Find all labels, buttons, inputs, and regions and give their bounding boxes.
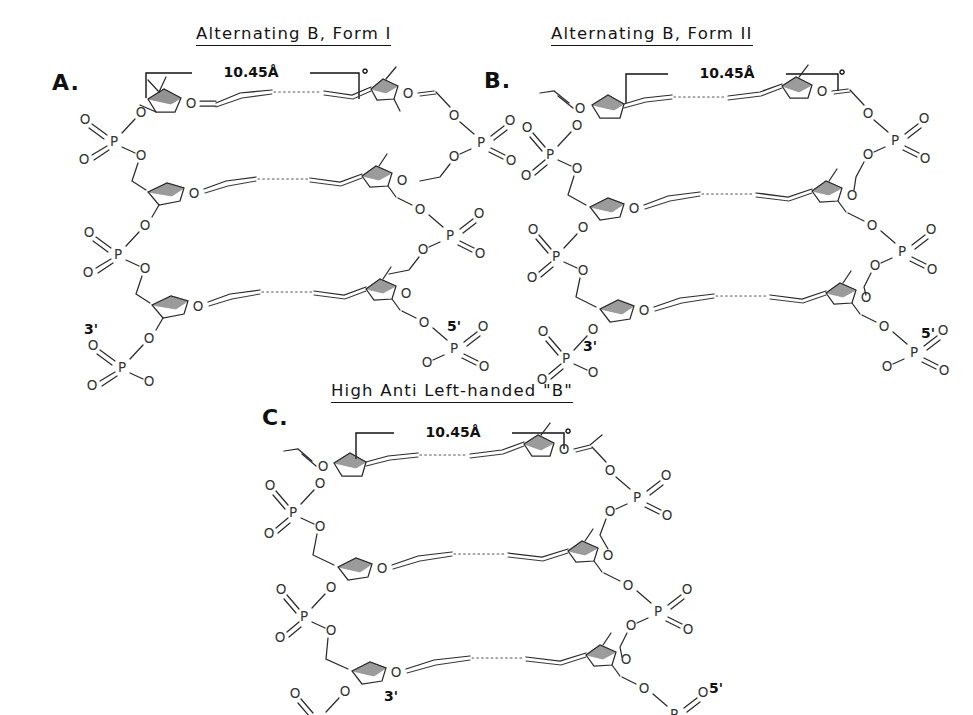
- svg-text:O: O: [397, 172, 408, 188]
- svg-text:O: O: [527, 269, 538, 285]
- svg-text:O: O: [863, 146, 874, 162]
- svg-text:O: O: [265, 477, 276, 493]
- panel-b-phosphate-right-1: O P O O O: [850, 90, 930, 190]
- svg-text:P: P: [552, 248, 560, 264]
- svg-text:O: O: [528, 221, 539, 237]
- panel-a-phosphate-left-2: O P O O O: [83, 217, 151, 303]
- svg-text:O: O: [623, 577, 634, 593]
- panel-c-title: High Anti Left-handed "B": [331, 381, 573, 403]
- svg-text:O: O: [449, 148, 460, 164]
- panel-c-phosphate-right-2: O P O O O: [604, 573, 693, 657]
- svg-text:O: O: [340, 683, 351, 699]
- svg-text:O: O: [920, 150, 931, 166]
- panel-c-basepair-2: O O: [338, 529, 613, 580]
- panel-b-basepair-2: O O: [590, 169, 857, 220]
- panel-a-phosphate-right-2: O P O O O: [389, 198, 485, 274]
- svg-text:O: O: [882, 358, 893, 374]
- panel-b-basepair-3: O O: [600, 271, 871, 322]
- svg-text:O: O: [588, 321, 599, 337]
- svg-text:O: O: [88, 337, 99, 353]
- svg-text:O: O: [136, 147, 147, 163]
- svg-text:O: O: [639, 302, 650, 318]
- panel-c-phosphate-left-3: O P O O O: [289, 683, 351, 715]
- panel-a-structure: 10.45Å O O: [40, 55, 500, 355]
- svg-text:O: O: [578, 219, 589, 235]
- panel-c-dimension-label: 10.45Å: [425, 424, 480, 440]
- panel-b-title: Alternating B, Form II: [551, 24, 753, 46]
- svg-text:P: P: [898, 243, 906, 259]
- svg-text:P: P: [114, 246, 122, 262]
- svg-text:O: O: [264, 525, 275, 541]
- svg-text:P: P: [654, 603, 662, 619]
- svg-text:P: P: [450, 340, 458, 356]
- svg-text:O: O: [276, 581, 287, 597]
- svg-text:O: O: [391, 664, 402, 680]
- svg-text:O: O: [927, 261, 938, 277]
- svg-text:O: O: [572, 160, 583, 176]
- svg-text:O: O: [522, 119, 533, 135]
- panel-b-dimension-label: 10.45Å: [699, 65, 754, 81]
- panel-c-letter: C.: [262, 405, 289, 430]
- panel-a-basepair-3: O O: [152, 267, 411, 330]
- svg-text:O: O: [867, 217, 878, 233]
- svg-text:P: P: [110, 133, 118, 149]
- panel-b-phosphate-left-3: O P O O O: [537, 321, 599, 387]
- svg-text:O: O: [449, 107, 460, 123]
- panel-b-phosphate-left-1: O P O O O: [521, 117, 586, 205]
- panel-a-basepair-1: O O: [140, 67, 436, 112]
- svg-text:O: O: [626, 617, 637, 633]
- svg-text:O: O: [318, 458, 329, 474]
- svg-text:O: O: [575, 100, 586, 116]
- svg-text:O: O: [521, 167, 532, 183]
- panel-a-phosphate-right-3: O P O O O: [402, 311, 489, 374]
- svg-text:O: O: [683, 621, 694, 637]
- panel-b-phosphate-left-2: O P O O O: [527, 219, 596, 307]
- svg-text:O: O: [559, 441, 570, 457]
- svg-text:O: O: [870, 257, 881, 273]
- svg-text:O: O: [326, 622, 337, 638]
- panel-b-letter: B.: [484, 68, 511, 93]
- svg-text:P: P: [300, 608, 308, 624]
- svg-text:O: O: [189, 185, 200, 201]
- panel-a-phosphate-left-3: O P O O O: [87, 330, 155, 393]
- svg-text:P: P: [546, 146, 554, 162]
- svg-text:P: P: [118, 359, 126, 375]
- svg-text:O: O: [578, 262, 589, 278]
- svg-text:O: O: [136, 104, 147, 120]
- svg-text:P: P: [633, 489, 641, 505]
- panel-c-phosphate-right-1: O P O O O: [592, 447, 672, 549]
- panel-b-structure: 10.45Å O O O P O: [520, 55, 970, 365]
- panel-c-structure: 10.45Å O O O P O: [290, 415, 750, 715]
- panel-b-dimension-bracket: 10.45Å: [626, 65, 844, 103]
- panel-a-dimension-label: 10.45Å: [223, 64, 278, 80]
- panel-a-dimension-bracket: 10.45Å: [146, 64, 367, 99]
- svg-text:O: O: [193, 298, 204, 314]
- svg-text:O: O: [275, 629, 286, 645]
- svg-text:O: O: [926, 221, 937, 237]
- svg-text:O: O: [87, 377, 98, 393]
- svg-text:O: O: [847, 187, 858, 203]
- svg-text:O: O: [629, 200, 640, 216]
- svg-text:O: O: [140, 260, 151, 276]
- svg-text:O: O: [661, 467, 672, 483]
- svg-text:O: O: [505, 112, 516, 128]
- panel-c-phosphate-left-2: O P O O O: [275, 579, 348, 669]
- panel-b-phosphate-right-2: O P O O O: [848, 213, 937, 295]
- panel-c-phosphate-left-1: O P O O O: [264, 475, 334, 565]
- svg-text:O: O: [418, 241, 429, 257]
- svg-text:O: O: [588, 364, 599, 380]
- svg-text:O: O: [84, 224, 95, 240]
- svg-text:O: O: [538, 323, 549, 339]
- svg-text:O: O: [290, 685, 301, 701]
- svg-text:O: O: [315, 518, 326, 534]
- svg-text:O: O: [419, 314, 430, 330]
- svg-text:O: O: [861, 289, 872, 305]
- panel-a-title: Alternating B, Form I: [196, 24, 391, 46]
- svg-text:P: P: [670, 706, 678, 715]
- svg-text:O: O: [698, 684, 709, 700]
- svg-text:O: O: [478, 318, 489, 334]
- svg-text:P: P: [891, 132, 899, 148]
- svg-text:O: O: [605, 503, 616, 519]
- svg-text:O: O: [140, 217, 151, 233]
- svg-text:O: O: [80, 111, 91, 127]
